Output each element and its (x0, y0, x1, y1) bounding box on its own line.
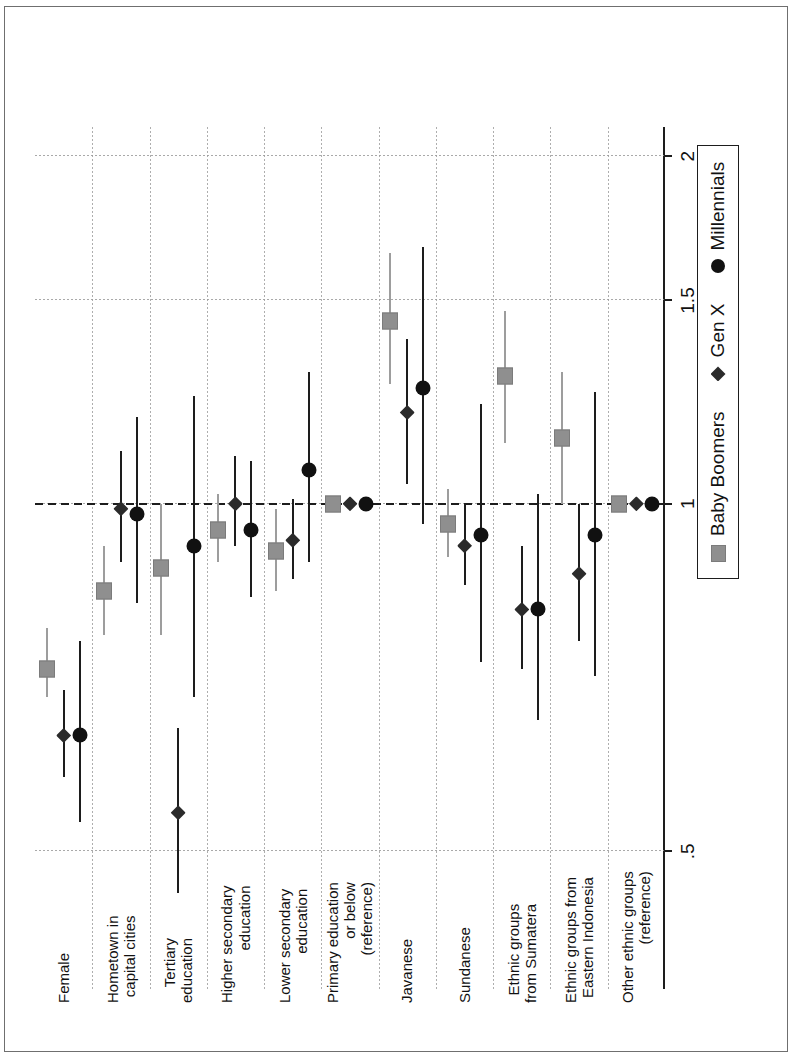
category-label: Javanese (399, 939, 416, 1003)
legend-label: Baby Boomers (707, 411, 729, 536)
axis-tick-label: .5 (677, 843, 699, 859)
rotated-figure-wrapper: .511.52FemaleHometown in capital citiesT… (0, 0, 794, 1059)
category-label: Lower secondary education (276, 889, 310, 1003)
category-label: Other ethnic groups (reference) (619, 871, 653, 1003)
estimate-marker (129, 506, 144, 521)
category-separator-gridline (150, 127, 151, 989)
estimate-marker (285, 533, 300, 548)
category-separator-gridline (550, 127, 551, 989)
estimate-marker (153, 559, 169, 576)
category-label: Sundanese (456, 927, 473, 1003)
legend-item: Baby Boomers (707, 411, 729, 562)
estimate-marker (359, 496, 374, 511)
axis-tick (664, 503, 672, 505)
axis-tick (664, 155, 672, 157)
estimate-marker (473, 527, 488, 542)
square-marker (711, 545, 726, 562)
estimate-marker (514, 602, 529, 617)
category-separator-gridline (608, 127, 609, 989)
coefficient-plot-figure: .511.52FemaleHometown in capital citiesT… (7, 9, 787, 1049)
estimate-marker (171, 805, 186, 820)
value-axis-line (663, 127, 665, 989)
category-separator-gridline (436, 127, 437, 989)
legend-label: Millennials (707, 162, 729, 251)
estimate-marker (39, 660, 55, 677)
category-separator-gridline (92, 127, 93, 989)
category-separator-gridline (321, 127, 322, 989)
axis-tick-label: 1 (677, 499, 699, 510)
estimate-marker (554, 430, 570, 447)
estimate-marker (96, 583, 112, 600)
estimate-marker (210, 521, 226, 538)
axis-tick (664, 850, 672, 852)
plot-area: .511.52FemaleHometown in capital citiesT… (35, 129, 665, 989)
estimate-marker (440, 516, 456, 533)
estimate-marker (325, 495, 341, 512)
estimate-marker (588, 527, 603, 542)
estimate-marker (457, 538, 472, 553)
category-label: Tertiary education (161, 938, 195, 1003)
estimate-marker (382, 312, 398, 329)
category-separator-gridline (207, 127, 208, 989)
category-separator-gridline (379, 127, 380, 989)
estimate-marker (611, 495, 627, 512)
category-label: Ethnic groups from Sumatera (505, 904, 539, 1003)
estimate-marker (400, 405, 415, 420)
estimate-marker (343, 496, 358, 511)
category-label: Primary education or below (reference) (324, 882, 375, 1003)
axis-tick-label: 2 (677, 151, 699, 162)
category-separator-gridline (264, 127, 265, 989)
category-label: Higher secondary education (218, 885, 252, 1003)
estimate-marker (228, 496, 243, 511)
category-label: Ethnic groups from Eastern Indonesia (562, 877, 596, 1003)
estimate-marker (416, 380, 431, 395)
circle-marker (711, 260, 725, 274)
axis-tick-label: 1.5 (677, 287, 699, 313)
estimate-marker (530, 602, 545, 617)
legend-box: Baby BoomersGen XMillennials (697, 145, 739, 579)
category-label: Hometown in capital cities (104, 915, 138, 1003)
estimate-marker (244, 522, 259, 537)
estimate-marker (268, 543, 284, 560)
category-separator-gridline (493, 127, 494, 989)
estimate-marker (187, 538, 202, 553)
category-label: Female (55, 953, 72, 1003)
estimate-marker (572, 566, 587, 581)
axis-tick (664, 299, 672, 301)
value-gridline (35, 299, 665, 300)
estimate-marker (56, 728, 71, 743)
estimate-marker (497, 368, 513, 385)
legend-label: Gen X (707, 304, 729, 358)
value-gridline (35, 850, 665, 851)
legend-item: Millennials (707, 162, 729, 274)
value-gridline (35, 155, 665, 156)
diamond-marker (711, 366, 726, 381)
estimate-marker (72, 728, 87, 743)
estimate-marker (301, 462, 316, 477)
figure-page: .511.52FemaleHometown in capital citiesT… (0, 0, 794, 1059)
estimate-marker (645, 496, 660, 511)
estimate-marker (629, 496, 644, 511)
legend-item: Gen X (707, 304, 729, 382)
